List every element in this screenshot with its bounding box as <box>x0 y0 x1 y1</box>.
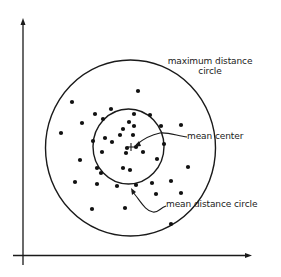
data-point <box>121 127 125 131</box>
data-point <box>128 168 132 172</box>
data-point <box>121 166 125 170</box>
data-point <box>78 158 82 162</box>
data-point <box>99 171 103 175</box>
data-point <box>95 166 99 170</box>
data-point <box>148 113 152 117</box>
data-point <box>141 150 145 154</box>
data-point <box>95 182 99 186</box>
data-point <box>136 89 140 93</box>
data-point <box>179 123 183 127</box>
data-point <box>134 183 138 187</box>
data-point <box>127 120 131 124</box>
data-point <box>169 179 173 183</box>
data-point <box>159 124 163 128</box>
data-point <box>154 192 158 196</box>
data-point <box>90 207 94 211</box>
label-maximum-distance-circle: maximum distance circle <box>160 56 260 76</box>
data-point <box>124 151 128 155</box>
data-point <box>73 180 77 184</box>
data-point <box>100 150 104 154</box>
data-point <box>70 100 74 104</box>
data-point <box>155 157 159 161</box>
data-point <box>150 181 154 185</box>
mean-center-leader <box>136 133 187 145</box>
data-point <box>179 191 183 195</box>
data-point <box>109 107 113 111</box>
label-max-line2: circle <box>160 66 260 76</box>
label-max-line1: maximum distance <box>160 56 260 66</box>
label-mean-center: mean center <box>187 131 243 141</box>
data-point <box>169 222 173 226</box>
data-point <box>123 206 127 210</box>
data-point <box>103 136 107 140</box>
data-point <box>101 117 105 121</box>
mean-distance-arrow-icon <box>131 188 136 195</box>
data-point <box>131 133 135 137</box>
data-point <box>91 139 95 143</box>
data-point <box>162 142 166 146</box>
data-point <box>115 184 119 188</box>
y-axis-arrow-icon <box>21 18 26 25</box>
mean-distance-leader <box>132 191 166 212</box>
data-point <box>110 140 114 144</box>
data-point <box>132 112 136 116</box>
data-point <box>80 121 84 125</box>
data-point <box>93 112 97 116</box>
data-point <box>59 131 63 135</box>
data-point <box>118 133 122 137</box>
label-mean-distance-circle: mean distance circle <box>166 199 257 209</box>
data-point <box>132 124 136 128</box>
mean-center-marker-icon <box>127 143 135 151</box>
data-point <box>186 165 190 169</box>
x-axis-arrow-icon <box>245 253 252 258</box>
